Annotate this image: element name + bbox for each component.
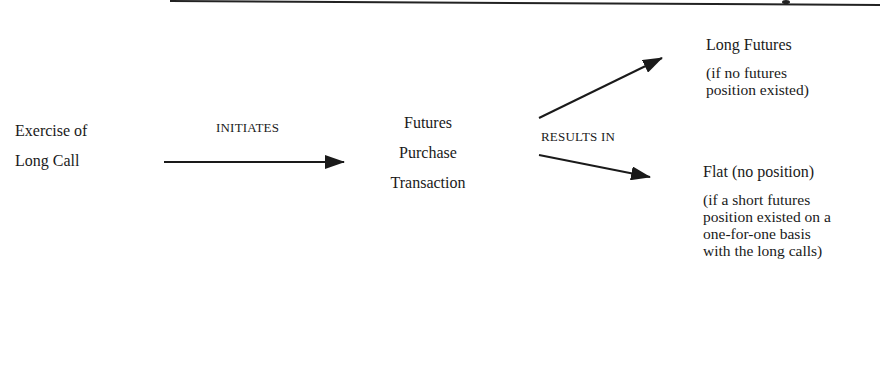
source-node: Exercise of Long Call: [15, 116, 87, 176]
outcome-flat: Flat (no position) (if a short futures p…: [703, 163, 831, 259]
outcome-flat-title: Flat (no position): [703, 163, 831, 181]
results-in-label: RESULTS IN: [541, 129, 615, 145]
outcome-flat-note-line-2: position existed on a: [703, 208, 831, 225]
middle-node-line-1: Futures: [368, 108, 488, 138]
outcome-long-futures-title: Long Futures: [706, 36, 809, 54]
results-arrow-up: [539, 58, 662, 118]
outcome-long-futures-note: (if no futures position existed): [706, 64, 809, 98]
middle-node-line-2: Purchase: [368, 138, 488, 168]
header-glyph-fragment: [782, 0, 790, 4]
outcome-flat-note-line-1: (if a short futures: [703, 191, 831, 208]
middle-node: Futures Purchase Transaction: [368, 108, 488, 198]
middle-node-line-3: Transaction: [368, 168, 488, 198]
outcome-flat-note-line-3: one-for-one basis: [703, 225, 831, 242]
outcome-long-futures-note-line-1: (if no futures: [706, 64, 809, 81]
results-arrow-down: [539, 155, 650, 177]
source-node-line-2: Long Call: [15, 146, 87, 176]
source-node-line-1: Exercise of: [15, 116, 87, 146]
outcome-flat-note: (if a short futures position existed on …: [703, 191, 831, 259]
outcome-long-futures: Long Futures (if no futures position exi…: [706, 36, 809, 98]
header-rule: [170, 1, 880, 5]
initiates-label: INITIATES: [216, 120, 279, 136]
outcome-long-futures-note-line-2: position existed): [706, 81, 809, 98]
outcome-flat-note-line-4: with the long calls): [703, 242, 831, 259]
